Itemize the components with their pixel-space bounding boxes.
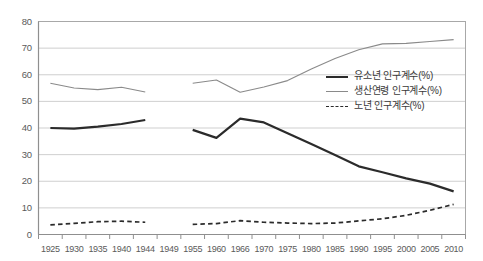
legend-line-swatch-youth-icon <box>325 70 349 82</box>
legend-label-working-age: 생산연령 인구계수(%) <box>354 85 442 97</box>
series-line-1-segment-0 <box>50 83 145 92</box>
chart-plot-area <box>0 0 483 261</box>
legend-item-elderly: 노년 인구계수(%) <box>325 99 465 113</box>
gridlines-group <box>39 22 466 235</box>
legend-line-swatch-elderly-icon <box>325 100 349 112</box>
y-tick-label-20: 20 <box>4 176 32 186</box>
legend-label-youth: 유소년 인구계수(%) <box>354 70 433 82</box>
y-tick-label-40: 40 <box>4 123 32 133</box>
series-line-2-segment-0 <box>50 221 145 225</box>
series-paths-group <box>50 40 453 225</box>
chart-legend: 유소년 인구계수(%) 생산연령 인구계수(%) 노년 인구계수(%) <box>325 69 465 114</box>
legend-label-elderly: 노년 인구계수(%) <box>354 100 424 112</box>
y-tick-label-80: 80 <box>4 17 32 27</box>
y-tick-label-70: 70 <box>4 43 32 53</box>
y-tick-label-60: 60 <box>4 70 32 80</box>
legend-item-youth: 유소년 인구계수(%) <box>325 69 465 83</box>
y-tick-label-30: 30 <box>4 150 32 160</box>
y-tick-label-10: 10 <box>4 203 32 213</box>
series-line-2-segment-1 <box>193 204 454 224</box>
x-tick-label-2010: 2010 <box>439 244 469 254</box>
y-tick-label-50: 50 <box>4 96 32 106</box>
legend-line-swatch-working-age-icon <box>325 85 349 97</box>
y-tick-label-0: 0 <box>4 230 32 240</box>
population-ratio-line-chart: 01020304050607080 1925193019351940194419… <box>0 0 483 261</box>
x-axis-ticks-group <box>39 235 466 240</box>
series-line-0-segment-0 <box>50 120 145 129</box>
legend-item-working-age: 생산연령 인구계수(%) <box>325 84 465 98</box>
